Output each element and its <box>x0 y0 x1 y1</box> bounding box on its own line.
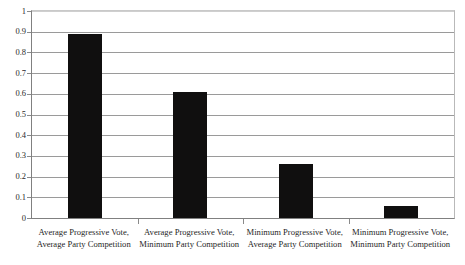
bar <box>68 34 102 218</box>
y-axis-tick-label: 0.2 <box>0 172 26 181</box>
y-axis-tick-label: 0 <box>0 214 26 223</box>
y-axis-tick-mark <box>27 218 31 219</box>
y-axis-tick-label: 0.9 <box>0 27 26 36</box>
x-axis-category-label-line: Average Progressive Vote, <box>23 226 145 238</box>
x-axis-category-label-line: Minimum Progressive Vote, <box>234 226 356 238</box>
gridline <box>32 32 454 33</box>
y-axis-tick-label: 0.6 <box>0 89 26 98</box>
gridline <box>32 11 454 12</box>
y-axis-tick-label: 0.1 <box>0 193 26 202</box>
bar <box>279 164 313 218</box>
y-axis-tick-label: 0.7 <box>0 69 26 78</box>
x-axis-category-label-line: Average Progressive Vote, <box>129 226 251 238</box>
bar <box>384 206 418 218</box>
x-axis-category-label-line: Minimum Party Competition <box>129 238 251 250</box>
x-axis-category-label-line: Minimum Progressive Vote, <box>340 226 462 238</box>
y-axis-tick-mark <box>27 52 31 53</box>
y-axis-tick-mark <box>27 94 31 95</box>
y-axis-tick-label: 0.4 <box>0 131 26 140</box>
y-axis-tick-mark <box>27 115 31 116</box>
x-axis-labels: Average Progressive Vote,Average Party C… <box>31 226 455 260</box>
plot-area <box>31 10 455 219</box>
y-axis-tick-label: 1 <box>0 7 26 16</box>
x-axis-category-label: Minimum Progressive Vote,Average Party C… <box>234 226 356 250</box>
y-axis-tick-label: 0.8 <box>0 48 26 57</box>
y-axis-tick-mark <box>27 32 31 33</box>
y-axis-tick-label: 0.3 <box>0 151 26 160</box>
y-axis-tick-mark <box>27 11 31 12</box>
x-axis-category-label-line: Average Party Competition <box>234 238 356 250</box>
y-axis-tick-mark <box>27 135 31 136</box>
bar <box>173 92 207 218</box>
x-axis-category-label: Average Progressive Vote,Minimum Party C… <box>129 226 251 250</box>
x-axis-category-label: Minimum Progressive Vote,Minimum Party C… <box>340 226 462 250</box>
x-axis-category-label: Average Progressive Vote,Average Party C… <box>23 226 145 250</box>
y-axis-tick-mark <box>27 197 31 198</box>
bar-chart: 00.10.20.30.40.50.60.70.80.91 Average Pr… <box>0 0 465 265</box>
y-axis-tick-label: 0.5 <box>0 110 26 119</box>
x-axis-tick-mark <box>349 219 350 224</box>
x-axis-tick-mark <box>243 219 244 224</box>
x-axis-tick-mark <box>138 219 139 224</box>
x-axis-category-label-line: Minimum Party Competition <box>340 238 462 250</box>
y-axis-tick-mark <box>27 156 31 157</box>
y-axis-tick-mark <box>27 177 31 178</box>
x-axis-category-label-line: Average Party Competition <box>23 238 145 250</box>
y-axis-tick-mark <box>27 73 31 74</box>
